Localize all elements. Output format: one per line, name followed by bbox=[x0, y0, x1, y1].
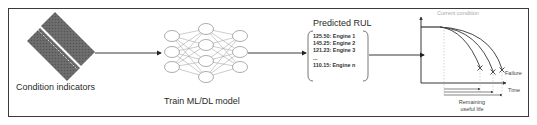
train-model-label: Train ML/DL model bbox=[164, 96, 240, 106]
failure-label: Failure bbox=[505, 70, 522, 76]
rul-entry: 110.15: Engine n bbox=[313, 62, 355, 69]
rul-ellipsis: ... bbox=[313, 55, 355, 62]
rul-predictions-list: 125.50: Engine 1 145.25: Engine 2 121.23… bbox=[313, 33, 355, 69]
current-condition-label: Current condition bbox=[437, 10, 479, 16]
remaining-useful-life-label: Remaining useful life bbox=[452, 99, 492, 113]
rul-entry: 145.25: Engine 2 bbox=[313, 40, 355, 47]
time-axis-label: Time bbox=[508, 87, 520, 93]
rul-arrows bbox=[444, 89, 502, 95]
predicted-rul-title: Predicted RUL bbox=[313, 18, 372, 28]
rul-entry: 121.23: Engine 3 bbox=[313, 47, 355, 54]
neural-network-icon bbox=[165, 24, 248, 83]
degradation-chart bbox=[421, 17, 506, 97]
data-matrix-icon bbox=[27, 12, 95, 81]
rul-entry: 125.50: Engine 1 bbox=[313, 33, 355, 40]
condition-indicators-label: Condition indicators bbox=[16, 82, 95, 92]
